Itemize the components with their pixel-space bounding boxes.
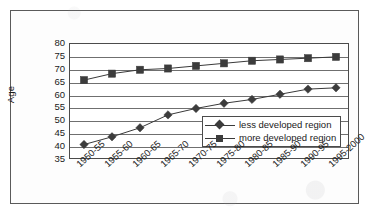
data-point-diamond <box>136 124 144 132</box>
data-point-square <box>136 66 143 73</box>
figure-frame: Age 80757065605550454035 less developed … <box>10 10 359 204</box>
y-axis-tick-labels: 80757065605550454035 <box>27 43 65 159</box>
data-point-square <box>248 57 255 64</box>
data-point-diamond <box>108 133 116 141</box>
y-axis-title: Age <box>5 86 16 104</box>
data-point-diamond <box>220 99 228 107</box>
y-axis-tick-label: 75 <box>29 51 65 61</box>
y-axis-tick-label: 50 <box>29 115 65 125</box>
y-axis-tick-label: 55 <box>29 102 65 112</box>
y-axis-tick-label: 80 <box>29 38 65 48</box>
data-point-square <box>80 76 87 83</box>
data-point-square <box>192 62 199 69</box>
y-axis-tick-label: 70 <box>29 64 65 74</box>
data-point-diamond <box>164 111 172 119</box>
y-axis-tick-label: 45 <box>29 128 65 138</box>
y-axis-tick-label: 65 <box>29 77 65 87</box>
y-axis-tick-label: 35 <box>29 154 65 164</box>
y-axis-tick-label: 40 <box>29 141 65 151</box>
data-point-diamond <box>192 104 200 112</box>
data-point-diamond <box>332 84 340 92</box>
series-line <box>84 57 336 80</box>
data-point-square <box>220 60 227 67</box>
legend-label: less developed region <box>235 119 331 130</box>
data-point-square <box>304 55 311 62</box>
diamond-marker-icon <box>205 119 235 131</box>
data-point-square <box>332 53 339 60</box>
y-axis-tick-label: 60 <box>29 90 65 100</box>
chart-figure: Age 80757065605550454035 less developed … <box>0 0 371 216</box>
data-point-square <box>164 65 171 72</box>
data-point-square <box>276 56 283 63</box>
data-point-diamond <box>276 90 284 98</box>
legend-item-less-developed-region: less developed region <box>205 118 336 131</box>
data-point-diamond <box>304 85 312 93</box>
x-axis-tick-labels: 1950-551955-601960-651965-701970-751975-… <box>69 161 349 216</box>
data-point-diamond <box>248 95 256 103</box>
data-point-square <box>108 70 115 77</box>
